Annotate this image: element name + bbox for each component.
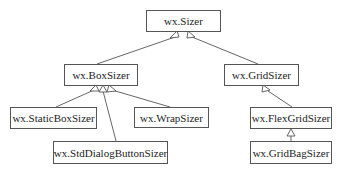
arrowhead-icon xyxy=(107,85,116,92)
node-wx-stddialogbuttonsizer: wx.StdDialogButtonSizer xyxy=(53,141,168,164)
edge-flexgridsizer-gridsizer xyxy=(268,91,292,107)
edge-gridsizer-sizer xyxy=(192,37,258,64)
edge-wrapsizer-boxsizer xyxy=(112,90,170,107)
node-wx-sizer: wx.Sizer xyxy=(146,10,221,32)
edge-stddialogbuttonsizer-boxsizer xyxy=(103,91,116,141)
node-wx-staticboxsizer: wx.StaticBoxSizer xyxy=(10,107,97,129)
node-wx-boxsizer: wx.BoxSizer xyxy=(64,64,138,86)
edge-staticboxsizer-boxsizer xyxy=(56,90,94,107)
arrowhead-icon xyxy=(99,85,107,92)
node-wx-flexgridsizer: wx.FlexGridSizer xyxy=(250,107,332,129)
arrowhead-icon xyxy=(287,129,295,136)
arrowhead-icon xyxy=(187,31,195,38)
arrowhead-icon xyxy=(170,31,179,38)
edge-boxsizer-sizer xyxy=(97,37,175,64)
node-wx-gridsizer: wx.GridSizer xyxy=(224,64,299,86)
node-wx-gridbagsizer: wx.GridBagSizer xyxy=(250,141,332,164)
arrowhead-icon xyxy=(262,85,270,92)
node-wx-wrapsizer: wx.WrapSizer xyxy=(134,107,209,128)
